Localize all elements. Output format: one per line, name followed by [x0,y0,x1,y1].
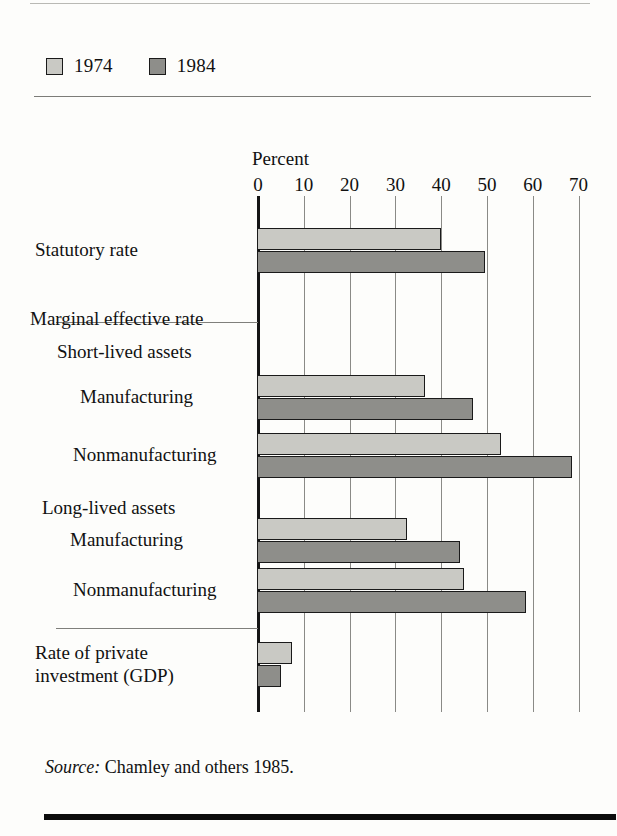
x-tick-label: 70 [569,174,588,196]
bar-1974 [257,433,501,455]
gridline [579,196,580,712]
category-label: Nonmanufacturing [73,579,217,601]
bar-1984 [257,456,572,478]
bar-1984 [257,398,473,420]
x-tick-label: 40 [432,174,451,196]
bottom-divider [44,814,616,820]
group-separator [56,628,258,629]
x-tick-label: 30 [386,174,405,196]
x-axis-title: Percent [252,148,309,170]
figure-page: 1974 1984 Percent 010203040506070Statuto… [0,0,617,836]
category-label: Nonmanufacturing [73,444,217,466]
category-label: Marginal effective rate [30,308,203,330]
x-tick-label: 60 [523,174,542,196]
category-label: Manufacturing [80,386,193,408]
bar-1984 [257,665,281,687]
bar-1984 [257,541,460,563]
category-label: Statutory rate [35,239,138,261]
x-tick-label: 20 [340,174,359,196]
bar-1974 [257,568,464,590]
source-prefix: Source: [45,757,100,777]
bar-1974 [257,642,292,664]
category-label: Long-lived assets [42,497,176,519]
category-label: Short-lived assets [57,341,192,363]
x-tick-label: 0 [253,174,263,196]
bar-chart: Percent 010203040506070Statutory rateMar… [0,0,617,836]
bar-1984 [257,251,485,273]
source-note: Source: Chamley and others 1985. [45,757,294,778]
category-label: Manufacturing [70,529,183,551]
x-tick-label: 50 [478,174,497,196]
gridline [533,196,534,712]
source-text: Chamley and others 1985. [105,757,294,777]
bar-1974 [257,375,425,397]
bar-1974 [257,518,407,540]
bar-1974 [257,228,441,250]
x-tick-label: 10 [294,174,313,196]
category-label: Rate of privateinvestment (GDP) [35,641,174,687]
bar-1984 [257,591,526,613]
